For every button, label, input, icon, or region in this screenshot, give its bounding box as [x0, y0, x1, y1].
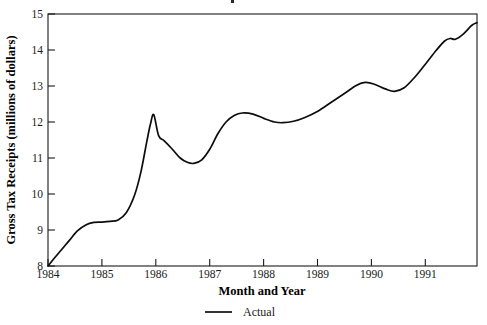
y-tick-label: 10 — [32, 188, 44, 200]
y-axis-tick-labels: 15 14 13 12 11 10 9 8 — [32, 8, 44, 272]
y-tick-label: 14 — [32, 44, 44, 56]
chart-figure: 15 14 13 12 11 10 9 8 1984 1985 1986 198… — [0, 0, 487, 325]
x-tick-label: 1987 — [198, 268, 221, 280]
x-tick-label: 1989 — [306, 268, 329, 280]
y-tick-label: 15 — [32, 8, 44, 20]
plot-area-frame — [48, 14, 477, 266]
x-tick-label: 1991 — [414, 268, 437, 280]
cropped-title-remnant — [231, 0, 234, 3]
x-tick-label: 1990 — [360, 268, 383, 280]
x-tick-label: 1985 — [90, 268, 113, 280]
x-axis-title: Month and Year — [218, 284, 305, 298]
x-tick-label: 1984 — [37, 268, 60, 280]
x-tick-label: 1988 — [252, 268, 275, 280]
series-line-actual — [48, 23, 477, 266]
x-tick-label: 1986 — [144, 268, 167, 280]
y-tick-label: 11 — [32, 152, 43, 164]
y-tick-label: 12 — [32, 116, 44, 128]
line-chart: 15 14 13 12 11 10 9 8 1984 1985 1986 198… — [0, 0, 487, 325]
legend-label-actual: Actual — [243, 305, 276, 319]
chart-legend: Actual — [205, 305, 276, 319]
y-tick-label: 9 — [37, 224, 43, 236]
y-axis-title: Gross Tax Receipts (millions of dollars) — [4, 35, 18, 244]
x-axis-tick-labels: 1984 1985 1986 1987 1988 1989 1990 1991 — [37, 268, 438, 280]
x-axis-ticks — [48, 259, 425, 266]
y-tick-label: 13 — [32, 80, 44, 92]
y-axis-ticks — [48, 14, 55, 266]
